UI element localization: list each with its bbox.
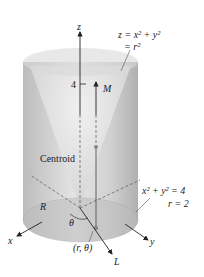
surface-equation-line1: z = x² + y² [117, 29, 161, 40]
point-label: (r, θ) [73, 242, 93, 254]
centroid-label: Centroid [40, 153, 75, 164]
boundary-leader-line [136, 198, 150, 212]
height-tick-label: 4 [71, 79, 76, 90]
l-axis-label: L [113, 256, 120, 267]
x-axis-label: x [7, 235, 13, 246]
boundary-equation-line2: r = 2 [168, 198, 189, 209]
m-axis-label: M [102, 83, 112, 94]
boundary-equation-line1: x² + y² = 4 [141, 185, 185, 196]
z-axis-label: z [76, 21, 81, 32]
region-label: R [39, 201, 46, 212]
centroid-point [94, 145, 98, 149]
surface-equation-line2: = r² [124, 41, 141, 52]
cylinder-top-rim [23, 48, 138, 76]
y-axis-label: y [149, 236, 155, 247]
theta-label: θ [69, 217, 74, 228]
cylinder-paraboloid-diagram: z 4 M z = x² + y² = r² Centroid R θ (r, … [0, 0, 204, 277]
